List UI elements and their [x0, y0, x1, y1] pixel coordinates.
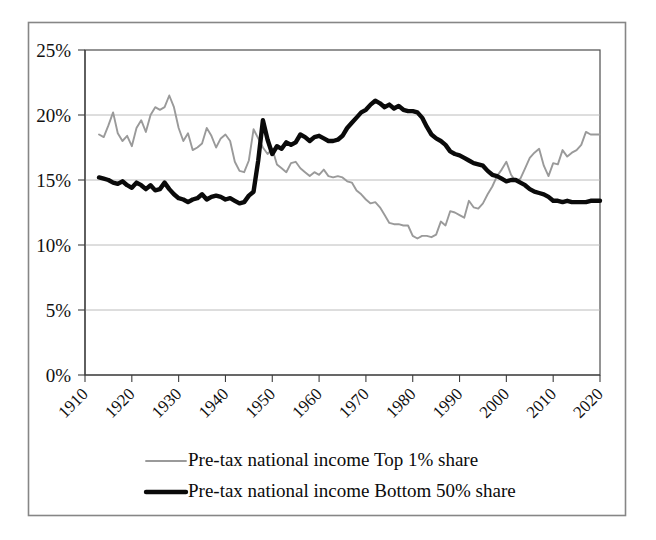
- chart-outer-border: [29, 23, 626, 516]
- y-axis-label-15%: 15%: [36, 170, 71, 191]
- legend-label-bottom50: Pre-tax national income Bottom 50% share: [188, 480, 516, 501]
- y-axis-label-10%: 10%: [36, 235, 71, 256]
- legend-label-top1: Pre-tax national income Top 1% share: [188, 449, 478, 470]
- y-axis-label-5%: 5%: [46, 300, 72, 321]
- figure-container: 0%5%10%15%20%25% 19101920193019401950196…: [0, 0, 656, 540]
- line-chart: 0%5%10%15%20%25% 19101920193019401950196…: [0, 0, 656, 540]
- y-axis-label-0%: 0%: [46, 365, 72, 386]
- y-axis-label-20%: 20%: [36, 105, 71, 126]
- y-axis-label-25%: 25%: [36, 40, 71, 61]
